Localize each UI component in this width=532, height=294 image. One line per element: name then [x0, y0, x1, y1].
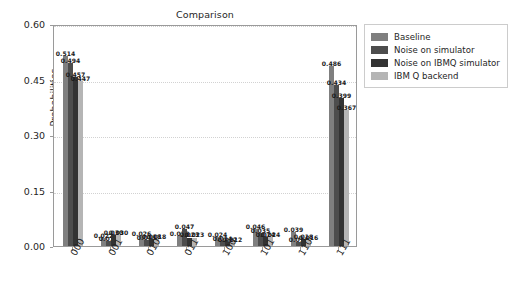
- bar-value-label: 0.486: [322, 60, 342, 67]
- bar-value-label: 0.514: [56, 50, 76, 57]
- legend-item[interactable]: Noise on IBMQ simulator: [371, 56, 500, 69]
- legend-item[interactable]: Baseline: [371, 30, 500, 43]
- plot-area: 0.5140.4940.4570.4470.0220.0140.0300.030…: [53, 25, 357, 247]
- bar-value-label: 0.399: [332, 92, 352, 99]
- legend-item[interactable]: IBM Q backend: [371, 69, 500, 82]
- y-tick-label: 0.00: [1, 241, 45, 252]
- bar-value-label: 0.024: [261, 231, 281, 238]
- bar-value-label: 0.039: [284, 226, 304, 233]
- bar-value-label: 0.367: [337, 104, 357, 111]
- bar-value-label: 0.047: [175, 223, 195, 230]
- legend-label: Noise on IBMQ simulator: [394, 58, 500, 68]
- legend-swatch-icon: [371, 33, 388, 41]
- bar: [78, 81, 83, 246]
- y-tick-label: 0.30: [1, 130, 45, 141]
- y-tick-label: 0.60: [1, 19, 45, 30]
- chart-legend: BaselineNoise on simulatorNoise on IBMQ …: [364, 24, 508, 88]
- legend-swatch-icon: [371, 59, 388, 67]
- legend-swatch-icon: [371, 46, 388, 54]
- bar-value-label: 0.434: [327, 79, 347, 86]
- y-tick-label: 0.15: [1, 186, 45, 197]
- legend-label: Baseline: [394, 32, 430, 42]
- gridline: [54, 26, 356, 27]
- legend-label: Noise on simulator: [394, 45, 475, 55]
- legend-item[interactable]: Noise on simulator: [371, 43, 500, 56]
- gridline: [54, 82, 356, 83]
- y-tick-label: 0.45: [1, 75, 45, 86]
- bar: [344, 110, 349, 246]
- bar-value-label: 0.494: [61, 57, 81, 64]
- chart-title: Comparison: [53, 9, 357, 20]
- y-tick-mark: [50, 247, 54, 248]
- bar-value-label: 0.030: [109, 229, 129, 236]
- bar-value-label: 0.447: [71, 75, 91, 82]
- gridline: [54, 137, 356, 138]
- legend-swatch-icon: [371, 72, 388, 80]
- gridline: [54, 193, 356, 194]
- legend-label: IBM Q backend: [394, 71, 458, 81]
- chart-figure: Comparison Probabilities 0.000.150.300.4…: [0, 0, 532, 294]
